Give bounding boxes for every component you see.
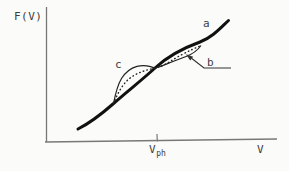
plot-canvas xyxy=(0,0,289,171)
x-axis-label: V xyxy=(257,144,264,155)
curve-b-label: b xyxy=(207,57,214,68)
vph-tick-label: Vph xyxy=(149,144,166,155)
curve-c-label: c xyxy=(115,59,122,70)
curve-a xyxy=(78,21,229,130)
curve-b-dashed xyxy=(114,46,202,104)
curve-c xyxy=(114,46,202,104)
fv-distribution-figure: F(V) a c b Vph V xyxy=(0,0,289,171)
y-axis-label: F(V) xyxy=(14,11,43,22)
x-axis xyxy=(45,139,277,142)
curve-a-label: a xyxy=(203,18,210,29)
vph-tick-label-sub: ph xyxy=(156,149,166,158)
